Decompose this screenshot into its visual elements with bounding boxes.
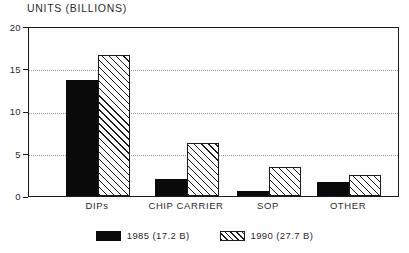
bar-1990-other: [349, 175, 381, 196]
bar-1985-other: [317, 182, 349, 196]
plot-frame: [28, 27, 399, 197]
bar-1985-chip-carrier: [155, 179, 187, 196]
legend-entry-1985: 1985 (17.2 B): [96, 230, 190, 241]
bar-1990-chip-carrier: [187, 143, 219, 196]
y-axis-label-10: 10: [0, 106, 21, 117]
y-axis-label-15: 15: [0, 64, 21, 75]
y-axis-label-0: 0: [0, 191, 21, 202]
bar-1985-dips: [66, 80, 98, 196]
legend-swatch-solid-icon: [96, 231, 121, 241]
y-axis-label-20: 20: [0, 22, 21, 33]
x-axis-label-other: OTHER: [330, 200, 366, 211]
chart-legend: 1985 (17.2 B) 1990 (27.7 B): [0, 230, 409, 241]
plot-area: [29, 28, 398, 196]
x-axis-label-sop: SOP: [257, 200, 279, 211]
x-axis-label-chip-carrier: CHIP CARRIER: [148, 200, 223, 211]
bar-1985-sop: [237, 191, 269, 196]
bar-chart: UNITS (BILLIONS) 20 15 10 5 0: [0, 0, 409, 253]
legend-label-1990: 1990 (27.7 B): [251, 230, 314, 241]
y-axis-label-5: 5: [0, 149, 21, 160]
bar-1990-dips: [98, 55, 130, 197]
chart-title: UNITS (BILLIONS): [27, 2, 127, 14]
bar-1990-sop: [269, 167, 301, 196]
gridline-15: [29, 70, 398, 71]
x-axis-label-dips: DIPs: [86, 200, 109, 211]
legend-entry-1990: 1990 (27.7 B): [220, 230, 314, 241]
legend-swatch-hatch-icon: [220, 231, 245, 241]
legend-label-1985: 1985 (17.2 B): [127, 230, 190, 241]
